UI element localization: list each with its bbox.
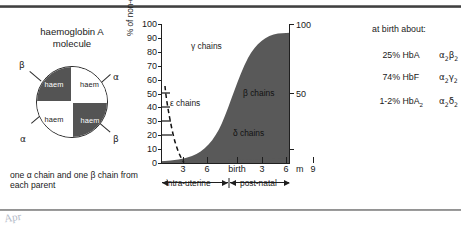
x-axis-tick-mark-2 — [237, 157, 238, 163]
x-axis-tick-label-6-4: 6 — [283, 164, 288, 174]
bottom-divider-rule — [0, 209, 461, 211]
y-axis-tick-label-20: 20 — [137, 130, 157, 140]
haemoglobin-chains-chart: % of non-α chains present 01020304050607… — [128, 16, 326, 188]
molecule-title: haemoglobin A molecule — [12, 26, 132, 49]
birth-row-1-percent: 25% — [366, 50, 400, 60]
quadrant-beta-bottom-right: haem — [72, 102, 107, 137]
x-axis-tick-label-9-5: 9 — [310, 164, 315, 174]
birth-row-3-percent: 1-2% — [358, 96, 400, 106]
x-axis-tick-mark-4 — [286, 157, 287, 163]
right-axis-label-100: 100 — [296, 20, 311, 30]
y-axis-tick-label-10: 10 — [137, 144, 157, 154]
right-axis-tick-bottom — [289, 149, 294, 150]
x-axis-unit-label: m — [296, 164, 304, 174]
y-axis-tick-label-40: 40 — [137, 102, 157, 112]
y-axis-tick-label-100: 100 — [137, 19, 157, 29]
haemoglobin-circle: haem haem haem haem — [36, 66, 108, 138]
gamma-chains-label: γ chains — [191, 41, 222, 51]
y-axis-tick-label-70: 70 — [137, 61, 157, 71]
birth-row-1-formula: α2β2 — [439, 50, 458, 60]
x-axis-tick-label-6-1: 6 — [204, 164, 209, 174]
quadrant-alpha-bottom-left: haem — [37, 102, 72, 137]
y-axis-tick-label-80: 80 — [137, 47, 157, 57]
label-beta-bottom: β — [113, 134, 119, 144]
x-axis-tick-mark-1 — [207, 157, 208, 163]
quadrant-beta-top-left: haem — [37, 67, 72, 102]
period-arrow-heads — [158, 176, 294, 190]
molecule-note: one α chain and one β chain from each pa… — [10, 170, 142, 191]
birth-row-2: 74% HbF α2γ2 — [366, 72, 458, 84]
y-axis-tick-label-30: 30 — [137, 116, 157, 126]
x-axis-tick-mark-0 — [183, 157, 184, 163]
top-divider-rule — [0, 5, 461, 8]
x-axis-tick-label-birth-2: birth — [228, 164, 246, 174]
x-axis-tick-mark-3 — [262, 157, 263, 163]
birth-row-3-formula: α2δ2 — [439, 96, 458, 106]
y-axis-tick-label-60: 60 — [137, 75, 157, 85]
label-beta-top: β — [19, 60, 25, 70]
right-axis-tick-100 — [289, 24, 294, 25]
y-axis-tick-label-0: 0 — [137, 158, 157, 168]
birth-row-1: 25% HbA α2β2 — [366, 50, 458, 62]
beta-chains-label: β chains — [243, 88, 274, 98]
y-axis-tick-label-50: 50 — [137, 89, 157, 99]
epsilon-chains-label: ε chains — [170, 98, 200, 108]
label-alpha-top: α — [113, 72, 119, 82]
y-axis-label: % of non-α chains present — [126, 0, 135, 36]
molecule-title-line2: molecule — [12, 38, 132, 50]
x-axis-tick-label-3-0: 3 — [180, 164, 185, 174]
label-alpha-bottom: α — [20, 134, 26, 144]
right-axis-label-50: 50 — [296, 89, 306, 99]
margin-handwritten-mark: Apr — [3, 210, 22, 224]
birth-row-2-formula: α2γ2 — [439, 72, 458, 82]
birth-panel-title: at birth about: — [372, 24, 426, 34]
quadrant-alpha-top-right: haem — [72, 67, 107, 102]
birth-row-3: 1-2% HbA2 α2δ2 — [358, 96, 458, 108]
birth-row-3-name: HbA2 — [402, 96, 436, 108]
birth-row-2-name: HbF — [402, 72, 436, 82]
x-axis-tick-mark-5 — [313, 157, 314, 163]
x-axis-tick-label-3-3: 3 — [259, 164, 264, 174]
y-axis-tick-label-90: 90 — [137, 33, 157, 43]
delta-chains-label: δ chains — [233, 128, 264, 138]
molecule-title-line1: haemoglobin A — [12, 26, 132, 38]
birth-row-1-name: HbA — [402, 50, 436, 60]
right-axis-tick-50 — [289, 93, 294, 94]
birth-row-2-percent: 74% — [366, 72, 400, 82]
haemoglobin-molecule-diagram: β α α β haem haem haem haem — [18, 58, 126, 164]
